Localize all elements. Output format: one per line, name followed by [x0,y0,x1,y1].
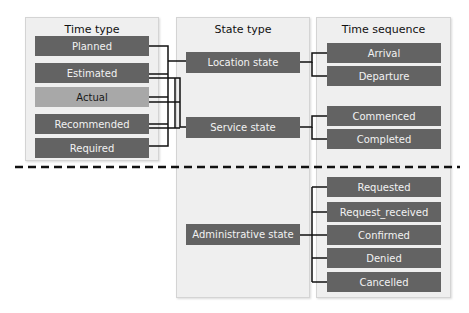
seq-commenced: Commenced [327,106,441,126]
time-type-recommended: Recommended [35,114,149,134]
state-service: Service state [186,117,300,138]
seq-arrival: Arrival [327,43,441,63]
seq-denied: Denied [327,248,441,268]
seq-completed: Completed [327,129,441,149]
time-type-actual: Actual [35,87,149,107]
seq-confirmed: Confirmed [327,225,441,245]
state-administrative: Administrative state [186,224,300,245]
seq-departure: Departure [327,66,441,86]
time-type-planned: Planned [35,36,149,56]
time-type-estimated: Estimated [35,63,149,83]
seq-requested: Requested [327,177,441,197]
seq-request-received: Request_received [327,202,441,222]
time-type-required: Required [35,138,149,158]
seq-cancelled: Cancelled [327,272,441,292]
time-sequence-title: Time sequence [317,23,450,36]
state-type-title: State type [177,23,309,36]
state-location: Location state [186,52,300,73]
time-type-title: Time type [26,23,158,36]
